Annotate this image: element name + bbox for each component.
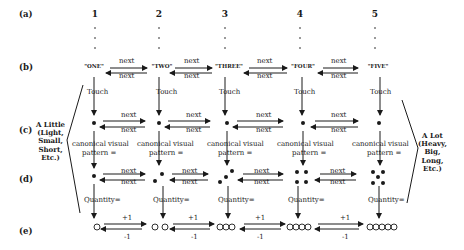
right-bracket (402, 100, 418, 203)
canonical-arrows (94, 131, 380, 168)
quantity-arrows (94, 184, 379, 218)
row-d-patterns (92, 169, 385, 185)
row-c-dots (92, 121, 381, 125)
touch-arrows (94, 77, 380, 115)
increment-arrows (101, 224, 363, 229)
diagram-graphics (0, 0, 464, 250)
left-bracket (67, 85, 83, 213)
next-arrows-b (106, 68, 358, 73)
ellipsis-dots (94, 27, 376, 49)
next-arrows-c (100, 121, 358, 127)
